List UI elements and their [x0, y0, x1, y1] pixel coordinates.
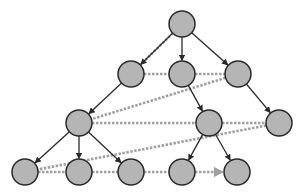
tree-edge — [188, 85, 202, 111]
tree-node-n9 — [118, 159, 144, 185]
tree-node-n5 — [196, 110, 222, 136]
tree-node-n7 — [12, 159, 38, 185]
tree-node-n6 — [266, 110, 292, 136]
tree-edge — [192, 33, 228, 65]
nodes — [12, 11, 292, 185]
tree-edges — [35, 33, 270, 163]
tree-edge — [246, 84, 270, 113]
tree-node-n10 — [169, 159, 195, 185]
tree-node-n11 — [224, 159, 250, 185]
tree-node-n8 — [66, 159, 92, 185]
tree-node-n1 — [118, 61, 144, 87]
tree-diagram — [0, 0, 300, 195]
tree-node-n4 — [66, 110, 92, 136]
tree-node-n3 — [225, 61, 251, 87]
tree-node-n2 — [169, 61, 195, 87]
tree-edge — [89, 83, 122, 114]
tree-edge — [141, 33, 173, 64]
tree-edge — [88, 132, 121, 163]
tree-edge — [35, 132, 69, 163]
tree-node-n0 — [169, 11, 195, 37]
tree-edge — [215, 134, 230, 160]
tree-edge — [189, 134, 203, 160]
